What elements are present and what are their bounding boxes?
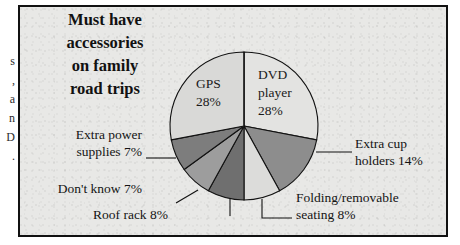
label-folding-removable-seating: Folding/removable seating 8% — [296, 190, 399, 223]
leader-dont-know — [176, 190, 198, 203]
label-line: Folding/removable — [296, 190, 399, 207]
label-extra-cup-holders: Extra cup holders 14% — [355, 136, 423, 169]
label-extra-power-supplies: Extra power supplies 7% — [28, 127, 142, 160]
figure-stage: s , a n D . Must have accessories on fam… — [0, 0, 460, 245]
label-dont-know: Don't know 7% — [30, 181, 142, 198]
label-line: holders 14% — [355, 153, 423, 170]
slice-label-dvd-player-line: player — [258, 85, 292, 100]
slice-label-gps-line: 28% — [196, 94, 221, 109]
label-line: Roof rack 8% — [56, 207, 168, 224]
slice-label-dvd-player-line: 28% — [258, 103, 283, 118]
pie-slices — [170, 52, 318, 200]
label-line: seating 8% — [296, 207, 399, 224]
slice-label-gps-line: GPS — [196, 76, 221, 91]
label-line: Extra cup — [355, 136, 423, 153]
label-line: Extra power — [28, 127, 142, 144]
label-line: Don't know 7% — [30, 181, 142, 198]
leader-folding-seating — [262, 199, 292, 218]
label-roof-rack: Roof rack 8% — [56, 207, 168, 224]
slice-label-dvd-player-line: DVD — [258, 67, 287, 82]
label-line: supplies 7% — [28, 144, 142, 161]
